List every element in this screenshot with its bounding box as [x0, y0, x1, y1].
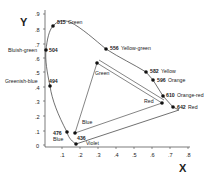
triangle-green-point [95, 61, 99, 65]
y-tick-label: .9 [35, 11, 40, 17]
label-642-name: Red [188, 104, 198, 110]
point-labels: 515 Green Bluish-green 504 Greenish-blue… [5, 19, 204, 146]
triangle-blue-label: Blue [82, 119, 92, 125]
y-tick-label: .6 [35, 56, 40, 62]
y-tick-label: .3 [35, 99, 40, 105]
y-tick-label: .1 [35, 129, 40, 135]
y-tick-label: 0 [36, 143, 39, 149]
locus-points [44, 24, 175, 146]
label-596-num: 596 [157, 77, 166, 83]
triangle-green-label: Green [95, 70, 110, 76]
point-494 [48, 84, 52, 88]
label-610-num: 610 [166, 92, 175, 98]
x-tick-label: .3 [96, 152, 101, 158]
label-582-num: 582 [150, 68, 159, 74]
triangle-red-point [160, 101, 164, 105]
triangle-red-label: Red [144, 98, 154, 104]
point-642 [171, 105, 175, 109]
point-436 [74, 142, 78, 146]
label-596-name: Orange [168, 77, 185, 83]
point-476 [65, 130, 69, 134]
label-436-name: Violet [86, 140, 99, 146]
point-515 [51, 24, 55, 28]
label-556-num: 556 [110, 45, 119, 51]
point-596 [151, 78, 155, 82]
x-tick-label: .6 [150, 152, 155, 158]
y-tick-label: .4 [35, 85, 40, 91]
point-556 [104, 47, 108, 51]
y-tick-label: .8 [35, 27, 40, 33]
chromaticity-diagram: 0 .1 .2 .3 .4 .5 .6 .7 .8 .9 .1 .2 .3 .4… [0, 0, 211, 180]
label-515-name: Green [68, 19, 83, 25]
x-tick-label: .4 [114, 152, 119, 158]
y-tick-label: .2 [35, 114, 40, 120]
label-436-num: 436 [77, 135, 86, 141]
label-504-name: Bluish-green [8, 47, 37, 53]
point-504 [44, 48, 48, 52]
label-494-num: 494 [49, 78, 58, 84]
label-476-name: Blue [53, 136, 63, 142]
label-504-num: 504 [49, 47, 58, 53]
point-610 [161, 94, 165, 98]
x-tick-label: .8 [186, 152, 191, 158]
label-642-num: 642 [177, 104, 186, 110]
x-axis-title: X [179, 162, 187, 174]
point-582 [144, 70, 148, 74]
label-556-name: Yellow-green [121, 45, 151, 51]
x-tick-label: .1 [60, 152, 65, 158]
y-tick-label: .5 [35, 70, 40, 76]
x-tick-label: .5 [132, 152, 137, 158]
label-610-name: Orange-red [177, 92, 204, 98]
x-tick-label: .7 [168, 152, 173, 158]
label-494-name: Greenish-blue [5, 78, 38, 84]
x-tick-label: .2 [78, 152, 83, 158]
label-515-num: 515 [57, 19, 66, 25]
label-582-name: Yellow [161, 68, 176, 74]
y-axis-title: Y [20, 16, 28, 28]
